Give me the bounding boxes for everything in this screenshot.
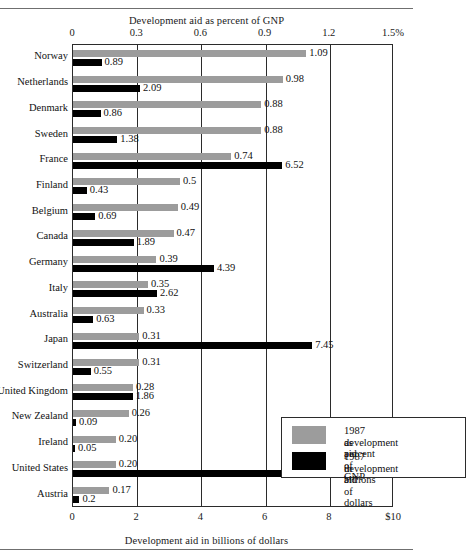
category-label-united-states: United States: [12, 462, 68, 473]
bottom-tick-label: 0: [69, 511, 74, 522]
bar-percent-of-gnp: [73, 333, 139, 340]
bar-billions-of-dollars: [73, 265, 214, 272]
bar-value-label: 1.38: [120, 134, 138, 145]
top-tick-label: 0.3: [130, 27, 143, 38]
bar-billions-of-dollars: [73, 59, 102, 66]
bar-percent-of-gnp: [73, 101, 261, 108]
bottom-axis-title: Development aid in billions of dollars: [0, 535, 413, 546]
top-divider-rule: [0, 8, 413, 9]
bar-billions-of-dollars: [73, 239, 134, 246]
bar-value-label: 0.86: [104, 108, 122, 119]
bar-billions-of-dollars: [73, 393, 133, 400]
bar-value-label: 0.31: [142, 331, 160, 342]
black-swatch-icon: [292, 452, 326, 470]
category-label-italy: Italy: [49, 282, 68, 293]
top-tick-label: 0.9: [258, 27, 271, 38]
bar-billions-of-dollars: [73, 445, 75, 452]
bottom-divider-rule: [0, 549, 413, 550]
bar-percent-of-gnp: [73, 204, 178, 211]
bar-value-label: 0.09: [79, 417, 97, 428]
top-axis-title: Development aid as percent of GNP: [0, 15, 413, 26]
bar-billions-of-dollars: [73, 162, 282, 169]
gridline: [201, 45, 202, 506]
bar-billions-of-dollars: [73, 136, 117, 143]
bar-value-label: 1.09: [309, 48, 327, 59]
top-tick-label: 1.5%: [382, 27, 404, 38]
bar-percent-of-gnp: [73, 153, 231, 160]
category-label-australia: Australia: [30, 308, 69, 319]
bar-value-label: 0.47: [177, 228, 195, 239]
bar-value-label: 7.45: [315, 340, 333, 351]
bar-value-label: 0.55: [94, 366, 112, 377]
bar-value-label: 0.74: [234, 151, 252, 162]
top-tick-label: 0: [69, 27, 74, 38]
bar-value-label: 2.09: [143, 83, 161, 94]
top-tick-label: 0.6: [194, 27, 207, 38]
bar-value-label: 0.5: [183, 176, 196, 187]
bar-value-label: 1.89: [137, 237, 155, 248]
category-label-netherlands: Netherlands: [17, 76, 68, 87]
bottom-tick-label: $10: [385, 511, 401, 522]
bar-billions-of-dollars: [73, 110, 101, 117]
category-label-norway: Norway: [34, 50, 68, 61]
bar-value-label: 0.05: [78, 443, 96, 454]
category-label-belgium: Belgium: [32, 205, 68, 216]
bar-value-label: 0.98: [286, 74, 304, 85]
chart-legend: 1987 development aid as percent of GNP 1…: [281, 417, 466, 478]
category-label-ireland: Ireland: [38, 436, 68, 447]
bar-percent-of-gnp: [73, 256, 156, 263]
bar-billions-of-dollars: [73, 187, 87, 194]
bar-value-label: 0.43: [90, 185, 108, 196]
bottom-tick-label: 2: [134, 511, 139, 522]
bar-value-label: 0.88: [264, 125, 282, 136]
bar-value-label: 0.2: [82, 494, 95, 505]
bar-value-label: 0.49: [181, 202, 199, 213]
gridline: [266, 45, 267, 506]
category-label-finland: Finland: [36, 179, 68, 190]
bottom-tick-label: 6: [262, 511, 267, 522]
bar-value-label: 4.39: [217, 263, 235, 274]
bar-percent-of-gnp: [73, 281, 148, 288]
bar-value-label: 2.62: [160, 288, 178, 299]
category-label-denmark: Denmark: [29, 102, 68, 113]
bar-value-label: 0.39: [159, 254, 177, 265]
category-label-united-kingdom: United Kingdom: [0, 385, 68, 396]
category-label-switzerland: Switzerland: [18, 359, 68, 370]
category-label-france: France: [39, 153, 68, 164]
bar-value-label: 0.33: [147, 305, 165, 316]
bar-billions-of-dollars: [73, 496, 79, 503]
bar-billions-of-dollars: [73, 213, 95, 220]
bar-value-label: 0.20: [119, 434, 137, 445]
bar-value-label: 0.89: [105, 57, 123, 68]
bottom-tick-label: 8: [326, 511, 331, 522]
bar-billions-of-dollars: [73, 342, 312, 349]
bar-value-label: 0.63: [96, 314, 114, 325]
bar-billions-of-dollars: [73, 419, 76, 426]
category-label-germany: Germany: [29, 256, 68, 267]
plot-area: 1.090.890.982.090.880.860.881.380.746.52…: [72, 44, 393, 507]
bar-percent-of-gnp: [73, 384, 133, 391]
bar-value-label: 0.69: [98, 211, 116, 222]
legend-dollars-line2: in billions of dollars: [344, 463, 376, 509]
category-label-austria: Austria: [37, 488, 68, 499]
bar-value-label: 6.52: [285, 160, 303, 171]
bottom-tick-label: 4: [198, 511, 203, 522]
gray-swatch-icon: [292, 426, 326, 444]
bar-value-label: 0.17: [112, 485, 130, 496]
bar-billions-of-dollars: [73, 290, 157, 297]
bar-value-label: 0.31: [142, 357, 160, 368]
bar-value-label: 0.20: [119, 459, 137, 470]
bar-value-label: 0.88: [264, 99, 282, 110]
category-label-sweden: Sweden: [35, 128, 68, 139]
bar-percent-of-gnp: [73, 76, 283, 83]
bar-billions-of-dollars: [73, 368, 91, 375]
bar-percent-of-gnp: [73, 461, 116, 468]
category-label-japan: Japan: [44, 333, 68, 344]
bar-value-label: 0.26: [132, 408, 150, 419]
bar-percent-of-gnp: [73, 127, 261, 134]
top-tick-label: 1.2: [322, 27, 335, 38]
gridline: [137, 45, 138, 506]
category-label-canada: Canada: [37, 230, 69, 241]
bar-value-label: 1.86: [136, 391, 154, 402]
